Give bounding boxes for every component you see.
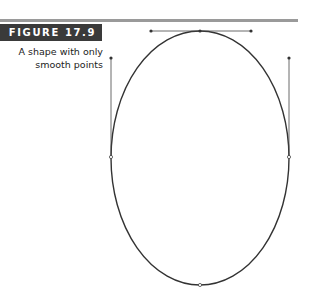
ellipse-diagram — [0, 0, 309, 289]
ellipse-path — [111, 31, 289, 285]
right-anchor-point[interactable] — [287, 155, 290, 158]
top-handle-left[interactable] — [149, 29, 152, 32]
left-anchor-point[interactable] — [109, 155, 112, 158]
top-handle-right[interactable] — [249, 29, 252, 32]
bottom-anchor-point[interactable] — [198, 283, 201, 286]
top-anchor-point[interactable] — [198, 29, 201, 32]
right-handle-end[interactable] — [287, 56, 290, 59]
left-handle-end[interactable] — [109, 56, 112, 59]
